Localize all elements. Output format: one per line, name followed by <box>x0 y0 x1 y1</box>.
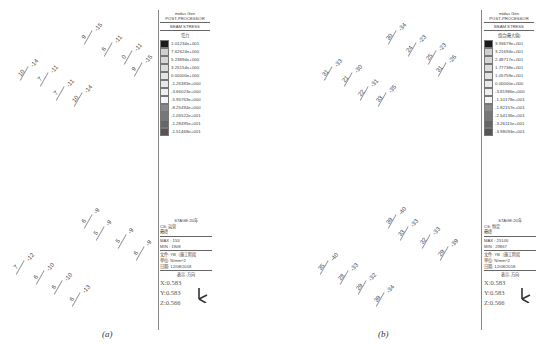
color-swatch <box>484 48 493 56</box>
legend-value: -3.26115e+001 <box>495 121 524 126</box>
legend-row: -1.05522e+001 <box>160 112 210 120</box>
date: 日期: 12/08/2018 <box>160 264 212 270</box>
legend-row: 3.25154e+000 <box>160 64 210 72</box>
legend-value: -1.26383e+000 <box>171 81 201 86</box>
color-swatch <box>160 120 169 128</box>
legend-row: -3.81986e+000 <box>484 88 534 96</box>
min-value: MIN : 1908 <box>160 244 212 250</box>
legend-row: 5.23894e+000 <box>160 56 210 64</box>
legend-value: -1.82157e+001 <box>495 105 525 110</box>
beam-stress-label: 21 <box>341 75 350 84</box>
legend-row: -1.10178e+001 <box>484 96 534 104</box>
legend-header: midas Gen POST-PROCESSOR <box>484 10 534 23</box>
color-swatch <box>160 112 169 120</box>
divider-b <box>481 10 482 330</box>
result-step: 最终 <box>160 229 212 235</box>
beam-stress-label: -23 <box>417 34 427 44</box>
beam-stress-label: -10 <box>63 272 73 282</box>
legend-row: 1.01234e+001 <box>160 40 210 48</box>
color-swatch <box>160 48 169 56</box>
result-type: BEAM STRESS <box>484 23 534 31</box>
beam-stress-label: 28 <box>337 273 346 282</box>
result-step: 最终 <box>484 229 536 235</box>
beam-stress-label: 39 <box>385 217 394 226</box>
beam-stress-label: 35 <box>317 263 326 272</box>
result-type: BEAM STRESS <box>160 23 210 31</box>
beam-stress-label: 39 <box>373 295 382 304</box>
legend-row: -1.82157e+001 <box>484 104 534 112</box>
module-name: POST-PROCESSOR <box>160 16 210 21</box>
legend-value: 1.05759e+001 <box>495 73 523 78</box>
beam-stress-label: -9 <box>105 219 113 227</box>
legend-row: -3.98094e+001 <box>484 128 534 136</box>
color-swatch <box>160 72 169 80</box>
beam-stress-label: 29 <box>437 249 446 258</box>
legend-value: 3.21694e+001 <box>495 49 523 54</box>
beam-stress-label: -39 <box>449 238 459 248</box>
stress-component: 组合(最大值) <box>484 31 534 40</box>
beam-stress-label: -34 <box>397 22 407 32</box>
color-swatch <box>484 72 493 80</box>
beam-stress-label: -14 <box>29 58 39 68</box>
legend-row: 1.05759e+001 <box>484 72 534 80</box>
legend-value: 5.23894e+000 <box>171 57 199 62</box>
legend-value: 2.48717e+001 <box>495 57 523 62</box>
beam-stress-label: 10 <box>71 95 80 104</box>
legend-rows: 1.01234e+0017.62624e+0005.23894e+0003.25… <box>160 40 210 136</box>
legend-row: 0.00000e+000 <box>160 72 210 80</box>
legend-row: -1.26383e+000 <box>160 80 210 88</box>
legend-header: midas Gen POST-PROCESSOR <box>160 10 210 23</box>
legend-value: -1.28495e+001 <box>171 121 201 126</box>
beam-stress-label: 29 <box>355 283 364 292</box>
caption-a: (a) <box>102 329 113 339</box>
color-swatch <box>484 64 493 72</box>
legend-value: -3.66023e+000 <box>171 89 201 94</box>
min-value: MIN : 29867 <box>484 244 536 250</box>
beam-stress-label: 33 <box>397 229 406 238</box>
color-swatch <box>484 96 493 104</box>
beam-stress-label: -15 <box>143 54 153 64</box>
legend-row: 3.21694e+001 <box>484 48 534 56</box>
legend-value: -1.51468e+001 <box>171 129 201 134</box>
beam-stress-label: -31 <box>369 78 379 88</box>
beam-stress-label: 30 <box>385 33 394 42</box>
legend-value: 3.93679e+001 <box>495 41 523 46</box>
color-swatch <box>160 104 169 112</box>
beam-stress-label: -33 <box>431 226 441 236</box>
color-swatch <box>484 40 493 48</box>
beam-stress-label: -11 <box>133 42 143 52</box>
beam-stress-label: 32 <box>419 237 428 246</box>
legend-value: -5.95763e+000 <box>171 97 201 102</box>
color-swatch <box>484 112 493 120</box>
axis-triad-icon <box>516 287 532 303</box>
color-swatch <box>160 96 169 104</box>
color-swatch <box>484 88 493 96</box>
color-swatch <box>484 104 493 112</box>
legend-value: 3.25154e+000 <box>171 65 199 70</box>
beam-stress-label: -9 <box>93 207 101 215</box>
divider-a <box>158 10 159 330</box>
legend-rows: 3.93679e+0013.21694e+0012.48717e+0011.77… <box>484 40 534 136</box>
legend-value: 7.62624e+000 <box>171 49 199 54</box>
beam-stress-label: -40 <box>397 206 407 216</box>
legend-value: -2.54136e+001 <box>495 113 525 118</box>
legend-row: -3.26115e+001 <box>484 120 534 128</box>
beam-stress-label: -34 <box>385 284 395 294</box>
legend-row: -5.95763e+000 <box>160 96 210 104</box>
beam-stress-label: -26 <box>447 54 457 64</box>
legend-value: -3.98094e+001 <box>495 129 525 134</box>
color-swatch <box>484 56 493 64</box>
beam-stress-label: -15 <box>93 22 103 32</box>
color-swatch <box>484 120 493 128</box>
beam-stress-label: -14 <box>83 84 93 94</box>
beam-stress-label: 10 <box>17 69 26 78</box>
legend-row: -2.54136e+001 <box>484 112 534 120</box>
beam-stress-label: -11 <box>65 78 75 88</box>
caption-b: (b) <box>378 329 389 339</box>
beam-stress-label: 22 <box>357 89 366 98</box>
legend-value: -3.81986e+000 <box>495 89 525 94</box>
legend-value: 1.01234e+001 <box>171 41 199 46</box>
legend-value: -1.10178e+001 <box>495 97 525 102</box>
beam-stress-label: -32 <box>367 272 377 282</box>
beam-stress-label: -33 <box>409 218 419 228</box>
